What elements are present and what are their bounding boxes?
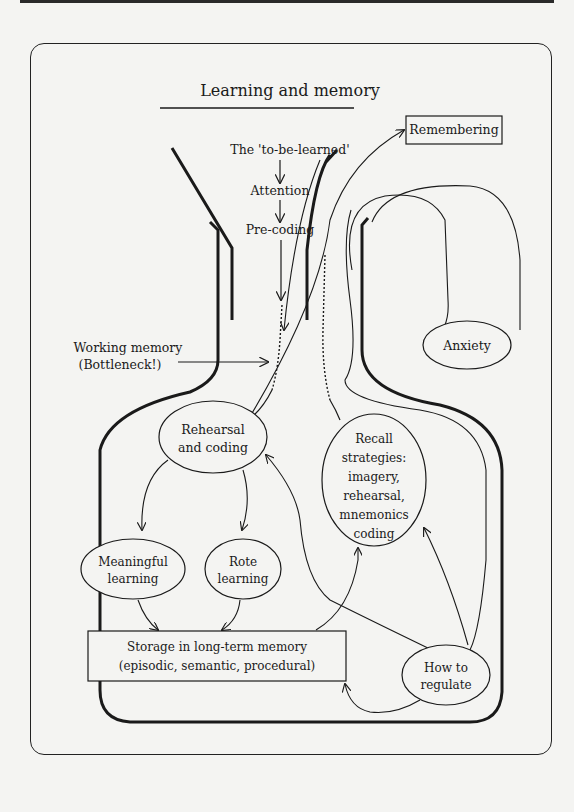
to-be-learned-label: The 'to-be-learned' xyxy=(230,142,349,157)
recall-label-4: rehearsal, xyxy=(343,489,405,503)
working-memory-label: Working memory xyxy=(74,340,184,355)
arrow-rote-to-storage xyxy=(222,600,240,630)
storage-label-2: (episodic, semantic, procedural) xyxy=(119,659,315,673)
arrow-meaningful-to-storage xyxy=(138,600,158,630)
rehearsal-coding-node xyxy=(159,401,267,473)
precoding-label: Pre-coding xyxy=(246,222,315,237)
anxiety-loop-inner xyxy=(349,195,448,340)
rehearsal-label-2: and coding xyxy=(178,440,248,455)
recall-connector xyxy=(330,400,340,420)
recall-label-3: imagery, xyxy=(348,470,400,484)
rehearsal-label-1: Rehearsal xyxy=(181,422,245,437)
how-to-regulate-node xyxy=(402,645,490,705)
attention-label: Attention xyxy=(250,183,310,198)
recall-label-6: coding xyxy=(354,527,395,541)
recall-dotted-path xyxy=(323,255,330,400)
meaningful-learning-node xyxy=(81,539,185,599)
storage-label-1: Storage in long-term memory xyxy=(127,640,307,654)
storage-box xyxy=(88,631,346,681)
arrow-regulate-to-recall xyxy=(424,528,468,645)
regulate-label-1: How to xyxy=(424,661,468,675)
learning-memory-diagram: Learning and memory Remembering The 'to-… xyxy=(0,0,574,812)
anxiety-label: Anxiety xyxy=(442,338,492,353)
arrow-storage-to-recall xyxy=(316,548,358,630)
rote-learning-node xyxy=(205,539,281,599)
remembering-label: Remembering xyxy=(409,122,498,137)
recall-label-1: Recall xyxy=(355,432,393,446)
rote-label-2: learning xyxy=(218,572,269,586)
arrow-to-meaningful xyxy=(142,460,168,530)
arrow-to-rote xyxy=(242,470,247,530)
bottleneck-label: (Bottleneck!) xyxy=(79,357,162,372)
regulate-label-2: regulate xyxy=(420,678,471,692)
meaningful-label-1: Meaningful xyxy=(98,555,168,569)
recall-label-2: strategies: xyxy=(342,451,407,465)
diagram-title: Learning and memory xyxy=(200,81,380,100)
funnel-left-outer xyxy=(172,148,232,320)
meaningful-label-2: learning xyxy=(108,572,159,586)
rote-label-1: Rote xyxy=(229,555,257,569)
bottleneck-dotted-path xyxy=(272,305,282,390)
recall-label-5: mnemonics xyxy=(339,508,408,522)
